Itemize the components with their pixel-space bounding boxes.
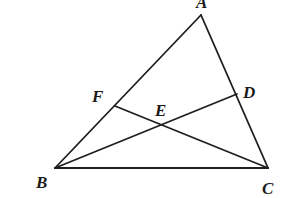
label-c: C bbox=[262, 179, 274, 198]
geometry-figure: A B C D E F bbox=[0, 0, 285, 198]
label-a: A bbox=[195, 0, 207, 12]
segment-bd bbox=[55, 94, 237, 168]
label-e: E bbox=[154, 101, 166, 120]
segments bbox=[55, 15, 268, 168]
label-b: B bbox=[35, 173, 47, 192]
segment-ab bbox=[55, 15, 201, 168]
label-f: F bbox=[91, 87, 104, 106]
label-d: D bbox=[242, 83, 255, 102]
